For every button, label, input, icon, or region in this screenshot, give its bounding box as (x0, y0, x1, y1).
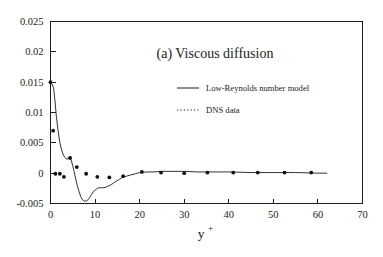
dns-data-point (95, 175, 99, 179)
dns-data-point (205, 171, 209, 175)
viscous-diffusion-chart: 0.0250.020.0150.010.0050-0.005 010203040… (0, 0, 383, 257)
x-tick-label: 50 (268, 209, 279, 220)
x-axis-ticks: 010203040506070 (48, 199, 368, 220)
dns-data-point (140, 170, 144, 174)
x-tick-label: 0 (48, 209, 53, 220)
dns-data-point (231, 171, 235, 175)
dns-data-point (159, 171, 163, 175)
legend: Low-Reynolds number model DNS data (177, 83, 310, 115)
legend-label-model: Low-Reynolds number model (206, 83, 310, 93)
dns-data-point (84, 172, 88, 176)
dns-data-point (75, 165, 79, 169)
dns-data-point (58, 172, 62, 176)
dns-data-point (107, 176, 111, 180)
dns-data-point (256, 171, 260, 175)
x-tick-label: 40 (224, 209, 235, 220)
dns-data-point (49, 80, 53, 84)
y-tick-label: 0.015 (20, 77, 44, 88)
y-tick-label: 0.02 (25, 46, 43, 57)
dns-data-point (51, 129, 55, 133)
figure-container: 0.0250.020.0150.010.0050-0.005 010203040… (0, 0, 383, 257)
dns-data-point (283, 171, 287, 175)
dns-data-point (62, 175, 66, 179)
dns-data-points (49, 80, 314, 179)
y-tick-label: 0.01 (25, 107, 43, 118)
dns-data-point (309, 171, 313, 175)
dns-data-point (121, 174, 125, 178)
y-tick-label: -0.005 (16, 198, 43, 209)
dns-data-point (54, 172, 58, 176)
low-reynolds-model-curve (51, 83, 327, 201)
x-axis-title-base: y (198, 226, 205, 241)
x-axis-title: y + (198, 223, 213, 241)
y-tick-label: 0 (38, 168, 43, 179)
y-axis-ticks: 0.0250.020.0150.010.0050-0.005 (16, 16, 55, 209)
panel-title: (a) Viscous diffusion (157, 46, 274, 62)
x-tick-label: 20 (134, 209, 145, 220)
y-tick-label: 0.005 (20, 137, 44, 148)
y-tick-label: 0.025 (20, 16, 44, 27)
legend-label-dns: DNS data (206, 105, 240, 115)
x-tick-label: 60 (313, 209, 324, 220)
x-tick-label: 30 (179, 209, 190, 220)
x-axis-title-superscript: + (208, 223, 213, 233)
x-tick-label: 70 (357, 209, 368, 220)
x-tick-label: 10 (90, 209, 101, 220)
dns-data-point (182, 171, 186, 175)
dns-data-point (68, 156, 72, 160)
